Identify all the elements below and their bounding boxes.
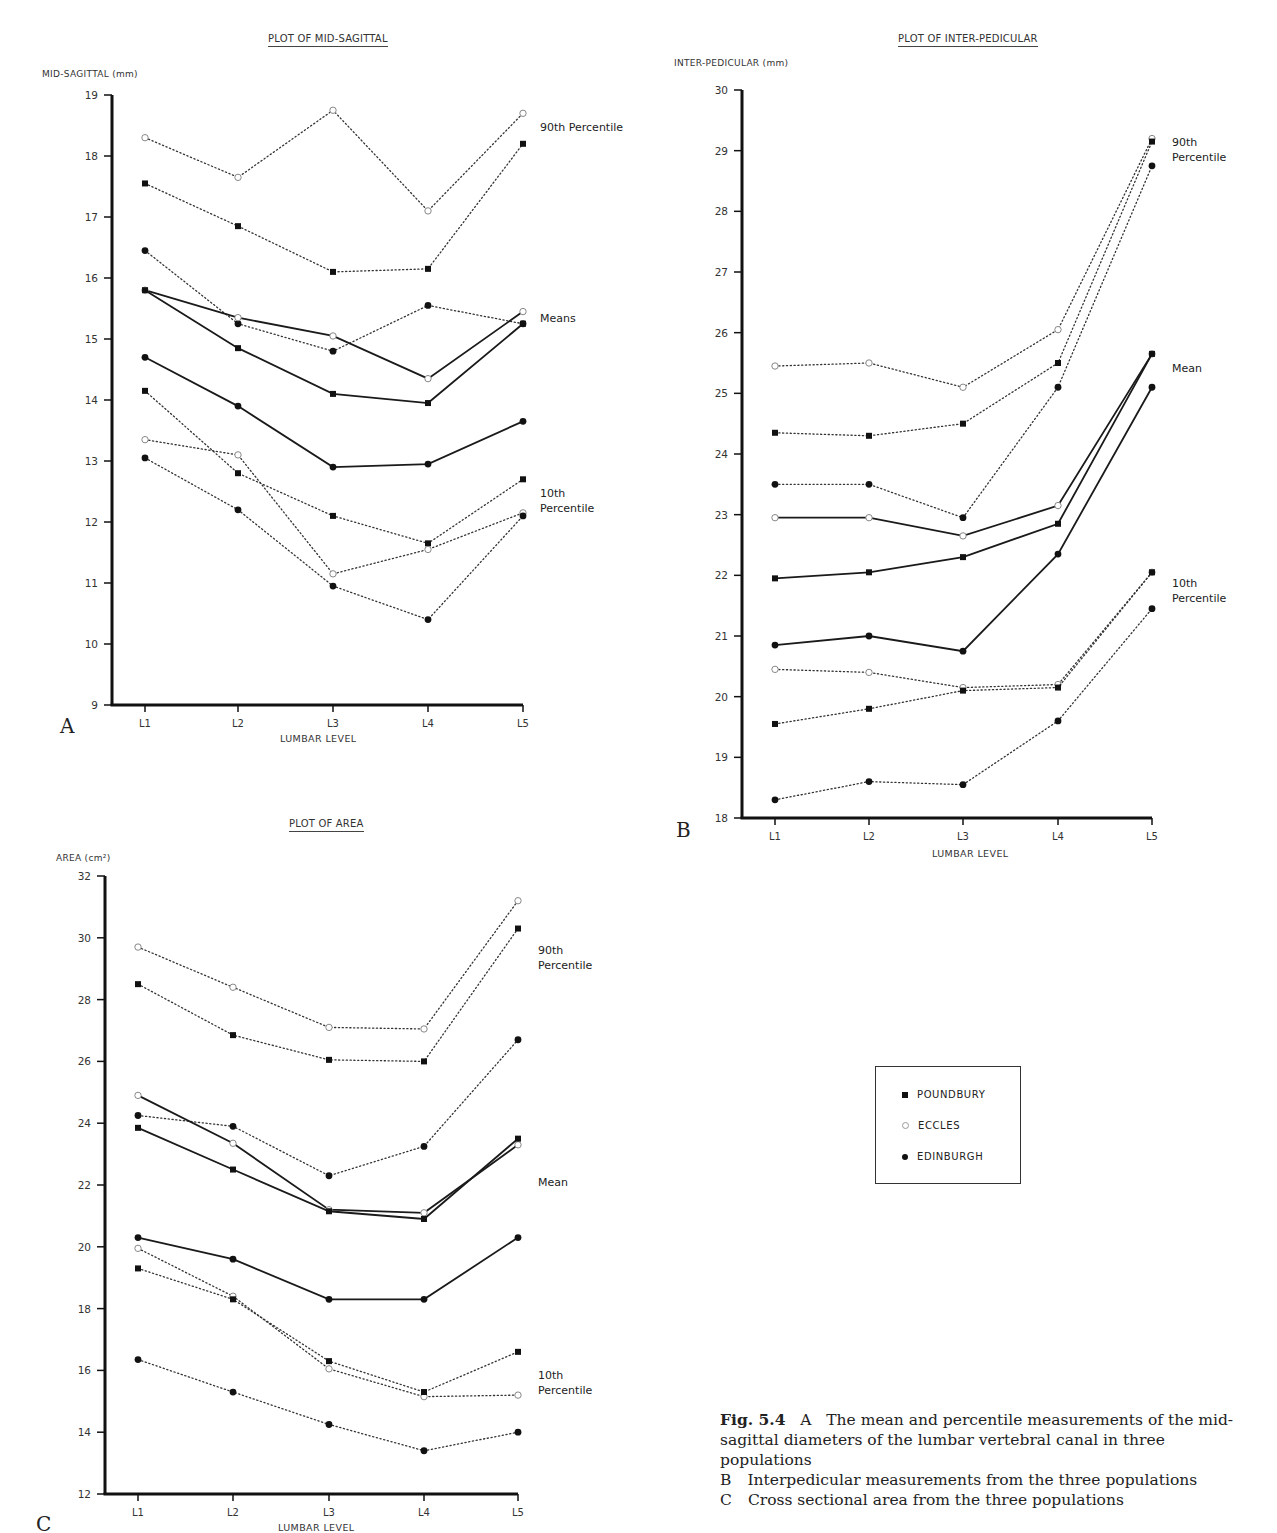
chart-c-x-tick-label: L3 [323, 1507, 335, 1518]
chart-b-y-tick-label: 18 [715, 812, 728, 824]
filled-circle-marker-icon [1055, 384, 1062, 391]
chart-a-series-line [145, 440, 523, 574]
chart-c-y-tick-label: 24 [78, 1117, 92, 1129]
figure-caption: Fig. 5.4 A The mean and percentile measu… [720, 1410, 1260, 1510]
chart-c-y-tick-label: 28 [78, 994, 91, 1006]
chart-a-y-tick-label: 13 [85, 455, 98, 467]
filled-circle-marker-icon [142, 455, 149, 462]
filled-square-marker-icon [515, 1136, 521, 1142]
chart-c-annotation-10th: 10th Percentile [538, 1368, 592, 1398]
open-circle-marker-icon [142, 135, 148, 141]
chart-b-series-line [775, 166, 1152, 518]
chart-c-y-tick-label: 22 [78, 1179, 91, 1191]
filled-square-marker-icon [142, 180, 148, 186]
filled-square-marker-icon [330, 269, 336, 275]
filled-circle-marker-icon [330, 464, 337, 471]
chart-b-x-tick-label: L1 [769, 831, 781, 842]
open-circle-marker-icon [421, 1210, 427, 1216]
filled-square-marker-icon [135, 1265, 141, 1271]
legend-item-edinburgh: EDINBURGH [902, 1151, 983, 1162]
chart-a-x-tick-label: L1 [139, 718, 151, 729]
chart-b-y-tick-label: 25 [715, 387, 728, 399]
open-circle-marker-icon [866, 360, 872, 366]
filled-square-marker-icon [515, 1349, 521, 1355]
chart-a-title: PLOT OF MID-SAGITTAL [268, 33, 388, 47]
chart-c-y-tick-label: 26 [78, 1055, 92, 1067]
figure-label: Fig. 5.4 [720, 1410, 786, 1429]
chart-b-series-line [775, 139, 1152, 388]
filled-square-marker-icon [1149, 139, 1155, 145]
chart-a-y-tick-label: 19 [85, 89, 98, 101]
filled-circle-marker-icon [1149, 384, 1156, 391]
chart-c-y-tick-label: 20 [78, 1241, 91, 1253]
chart-a-annotation-10th: 10th Percentile [540, 486, 594, 516]
filled-square-marker-icon [142, 287, 148, 293]
chart-c-panel-letter: C [36, 1512, 51, 1533]
chart-b-y-tick-label: 21 [715, 630, 728, 642]
open-circle-marker-icon [235, 314, 241, 320]
chart-c-x-tick-label: L4 [418, 1507, 430, 1518]
chart-b-y-tick-label: 26 [715, 327, 729, 339]
filled-square-marker-icon [421, 1058, 427, 1064]
open-circle-marker-icon [520, 308, 526, 314]
chart-b-y-tick-label: 19 [715, 751, 728, 763]
filled-circle-marker-icon [425, 461, 432, 468]
filled-circle-marker-icon [135, 1234, 142, 1241]
filled-square-marker-icon [1149, 569, 1155, 575]
open-circle-marker-icon [902, 1122, 909, 1129]
filled-circle-marker-icon [866, 778, 873, 785]
open-circle-marker-icon [230, 1140, 236, 1146]
filled-square-marker-icon [421, 1389, 427, 1395]
chart-c-x-tick-label: L5 [512, 1507, 524, 1518]
chart-a-x-axis-label: LUMBAR LEVEL [280, 733, 357, 744]
open-circle-marker-icon [772, 363, 778, 369]
open-circle-marker-icon [235, 452, 241, 458]
chart-a-series-line [145, 458, 523, 620]
filled-circle-marker-icon [1055, 551, 1062, 558]
filled-circle-marker-icon [330, 348, 337, 355]
filled-square-marker-icon [520, 321, 526, 327]
filled-square-marker-icon [230, 1032, 236, 1038]
filled-square-marker-icon [235, 345, 241, 351]
open-circle-marker-icon [135, 1245, 141, 1251]
filled-circle-marker-icon [421, 1447, 428, 1454]
open-circle-marker-icon [960, 533, 966, 539]
chart-b-y-axis-label: INTER-PEDICULAR (mm) [674, 58, 788, 68]
legend-label: EDINBURGH [917, 1151, 983, 1162]
filled-square-marker-icon [520, 476, 526, 482]
filled-square-marker-icon [866, 569, 872, 575]
filled-square-marker-icon [1149, 351, 1155, 357]
chart-b-annotation-10th: 10th Percentile [1172, 576, 1226, 606]
open-circle-marker-icon [425, 546, 431, 552]
chart-b-x-tick-label: L3 [957, 831, 969, 842]
chart-a-y-tick-label: 17 [85, 211, 98, 223]
open-circle-marker-icon [326, 1024, 332, 1030]
filled-square-marker-icon [135, 1125, 141, 1131]
chart-a-x-tick-label: L3 [327, 718, 339, 729]
filled-circle-marker-icon [772, 481, 779, 488]
filled-circle-marker-icon [866, 633, 873, 640]
open-circle-marker-icon [330, 107, 336, 113]
chart-a-y-tick-label: 14 [85, 394, 99, 406]
filled-square-marker-icon [1055, 360, 1061, 366]
legend-item-poundbury: POUNDBURY [902, 1089, 985, 1100]
filled-circle-marker-icon [425, 616, 432, 623]
chart-a-y-tick-label: 15 [85, 333, 98, 345]
open-circle-marker-icon [235, 174, 241, 180]
open-circle-marker-icon [960, 384, 966, 390]
chart-a-y-tick-label: 9 [91, 699, 98, 711]
filled-circle-marker-icon [960, 514, 967, 521]
chart-c-y-tick-label: 18 [78, 1303, 91, 1315]
chart-b-x-tick-label: L5 [1146, 831, 1158, 842]
chart-b-y-tick-label: 22 [715, 569, 728, 581]
chart-b-x-tick-label: L4 [1052, 831, 1064, 842]
chart-c-y-tick-label: 14 [78, 1426, 92, 1438]
filled-circle-marker-icon [330, 583, 337, 590]
chart-b-series-line [775, 142, 1152, 436]
filled-circle-marker-icon [235, 403, 242, 410]
filled-square-marker-icon [235, 223, 241, 229]
filled-circle-marker-icon [902, 1154, 908, 1160]
chart-b-y-tick-label: 27 [715, 266, 728, 278]
chart-b-series-line [775, 609, 1152, 800]
open-circle-marker-icon [1055, 326, 1061, 332]
